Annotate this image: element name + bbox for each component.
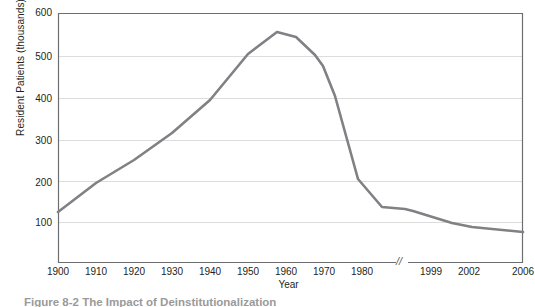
y-tick-400: 400 [22, 94, 52, 104]
axis-break-marker: // [396, 256, 402, 266]
figure-container: Resident Patients (thousands) 600 500 40… [0, 0, 535, 307]
axis-frame [58, 14, 523, 263]
x-axis-title: Year [0, 279, 535, 290]
chart-svg [0, 0, 535, 307]
y-tick-300: 300 [22, 136, 52, 146]
x-tick-2002: 2002 [447, 267, 491, 277]
x-tick-2006: 2006 [501, 267, 535, 277]
gridlines [58, 57, 523, 223]
y-tick-500: 500 [22, 52, 52, 62]
figure-caption: Figure 8-2 The Impact of Deinstitutional… [24, 296, 276, 307]
y-tick-100: 100 [22, 218, 52, 228]
x-axis-title-text: Year [278, 279, 298, 290]
y-tick-600: 600 [22, 8, 52, 18]
y-tick-200: 200 [22, 178, 52, 188]
y-axis-title: Resident Patients (thousands) [15, 0, 26, 158]
data-series-resident-patients [58, 32, 523, 232]
x-tick-1980: 1980 [340, 267, 384, 277]
